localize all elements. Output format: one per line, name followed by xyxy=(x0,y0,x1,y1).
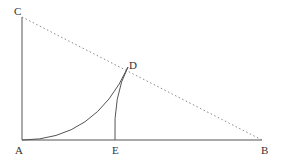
label-b: B xyxy=(261,145,268,156)
label-d: D xyxy=(129,60,137,71)
label-e: E xyxy=(112,145,119,156)
curve-ad xyxy=(22,67,128,140)
label-a: A xyxy=(15,145,23,156)
geometry-diagram xyxy=(0,0,281,161)
segment-cb-dotted xyxy=(22,17,262,140)
curve-ed xyxy=(115,67,128,140)
label-c: C xyxy=(14,6,21,17)
